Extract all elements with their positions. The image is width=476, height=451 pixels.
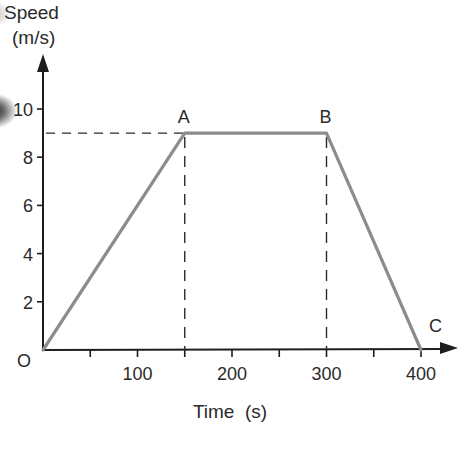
y-tick-label: 8 bbox=[23, 148, 33, 168]
speed-line bbox=[43, 133, 421, 350]
y-axis-title-line1: Speed bbox=[4, 2, 59, 23]
data-series bbox=[43, 133, 421, 350]
y-axis-arrow-icon bbox=[37, 54, 49, 72]
y-tick-label: 10 bbox=[13, 100, 33, 120]
x-tick-label: 400 bbox=[406, 364, 436, 384]
speed-time-graph: Speed (m/s) 246810100200300400OABC Time … bbox=[0, 0, 476, 451]
origin-label: O bbox=[17, 351, 31, 371]
x-axis-arrow-icon bbox=[440, 342, 458, 354]
point-label-a: A bbox=[178, 107, 190, 127]
x-axis bbox=[43, 349, 446, 350]
y-tick-label: 4 bbox=[23, 245, 33, 265]
y-axis-title-line2: (m/s) bbox=[12, 27, 55, 48]
dashed-guides bbox=[46, 133, 327, 350]
y-tick-label: 6 bbox=[23, 196, 33, 216]
x-tick-label: 300 bbox=[311, 364, 341, 384]
axes bbox=[37, 54, 458, 357]
tick-labels: 246810100200300400OABC bbox=[13, 100, 442, 384]
point-label-b: B bbox=[319, 107, 331, 127]
y-tick-label: 2 bbox=[23, 293, 33, 313]
x-tick-label: 200 bbox=[217, 364, 247, 384]
x-tick-label: 100 bbox=[122, 364, 152, 384]
x-axis-title: Time (s) bbox=[193, 401, 267, 422]
point-label-c: C bbox=[429, 316, 442, 336]
